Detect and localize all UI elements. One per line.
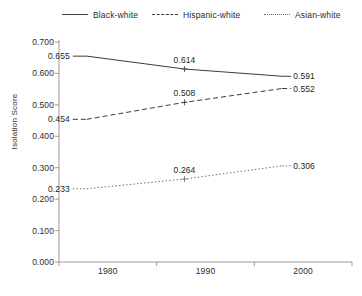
data-point-value-label: 0.233 xyxy=(48,184,70,194)
data-point-value-label: 0.552 xyxy=(293,84,315,94)
data-point-value-label: 0.306 xyxy=(293,161,315,171)
data-point-value-label: 0.264 xyxy=(174,165,196,175)
data-point-value-label: 0.454 xyxy=(48,114,70,124)
data-point-value-label: 0.508 xyxy=(174,88,196,98)
plot-area xyxy=(0,0,362,296)
data-point-value-label: 0.655 xyxy=(48,51,70,61)
isolation-score-line-chart: Black-white Hispanic-white Asian-white I… xyxy=(0,0,362,296)
data-point-value-label: 0.591 xyxy=(293,71,315,81)
data-point-value-label: 0.614 xyxy=(174,55,196,65)
